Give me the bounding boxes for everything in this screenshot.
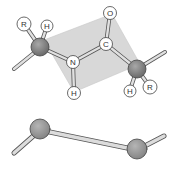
- svg-text:O: O: [107, 9, 113, 18]
- atom-h-left: H: [41, 20, 53, 32]
- simplified-backbone: [14, 119, 164, 159]
- svg-text:H: H: [44, 22, 50, 31]
- alpha-carbon-right: [128, 60, 146, 78]
- peptide-diagram: R H N H C O H R: [0, 0, 172, 174]
- atom-h-right: H: [124, 85, 136, 97]
- backbone-atom-right: [127, 139, 147, 159]
- backbone-atom-left: [30, 119, 50, 139]
- svg-text:H: H: [71, 89, 77, 98]
- atom-h-n: H: [68, 87, 81, 100]
- atom-r-right: R: [143, 80, 157, 94]
- svg-text:R: R: [21, 20, 27, 29]
- atom-c: C: [100, 38, 113, 51]
- atom-n: N: [67, 56, 80, 69]
- alpha-carbon-left: [31, 38, 49, 56]
- atom-r-left: R: [17, 17, 31, 31]
- svg-text:N: N: [70, 58, 76, 67]
- atom-o: O: [104, 7, 117, 20]
- svg-text:R: R: [147, 83, 153, 92]
- svg-text:C: C: [103, 40, 109, 49]
- peptide-plane-structure: R H N H C O H R: [14, 7, 165, 100]
- svg-text:H: H: [127, 87, 133, 96]
